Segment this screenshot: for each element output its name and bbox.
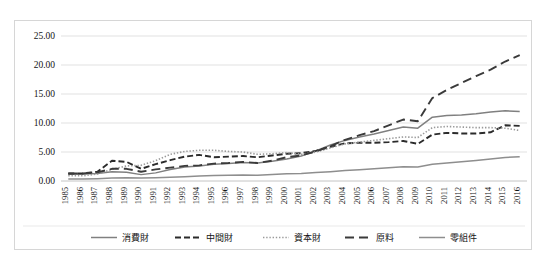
svg-text:2009: 2009 xyxy=(410,187,420,204)
svg-text:1991: 1991 xyxy=(148,187,158,204)
chart-plot-area: 0.005.0010.0015.0020.0025.00 19851986198… xyxy=(15,21,533,251)
line-chart: 0.005.0010.0015.0020.0025.00 19851986198… xyxy=(15,21,533,251)
svg-text:2004: 2004 xyxy=(337,186,347,204)
series-line-3 xyxy=(68,55,519,173)
svg-text:1997: 1997 xyxy=(235,186,245,204)
series-line-2 xyxy=(68,126,519,175)
legend-label-2: 資本財 xyxy=(294,232,321,243)
svg-text:10.00: 10.00 xyxy=(34,118,56,128)
svg-text:20.00: 20.00 xyxy=(34,60,56,70)
svg-text:2003: 2003 xyxy=(322,187,332,204)
svg-text:2001: 2001 xyxy=(293,187,303,204)
gridlines xyxy=(61,36,527,181)
chart-legend: 消費財中間財資本財原料零組件 xyxy=(23,226,525,243)
svg-text:1987: 1987 xyxy=(89,186,99,204)
svg-text:1988: 1988 xyxy=(104,187,114,204)
series-line-0 xyxy=(68,111,519,175)
svg-text:2002: 2002 xyxy=(308,187,318,204)
svg-text:5.00: 5.00 xyxy=(38,147,55,157)
chart-frame: 0.005.0010.0015.0020.0025.00 19851986198… xyxy=(14,20,532,250)
svg-text:2012: 2012 xyxy=(453,187,463,204)
svg-text:1989: 1989 xyxy=(119,187,129,204)
series-line-4 xyxy=(68,157,519,179)
svg-text:15.00: 15.00 xyxy=(34,89,56,99)
x-axis-tick-labels: 1985198619871988198919901991199219931994… xyxy=(60,186,521,204)
svg-text:2000: 2000 xyxy=(279,187,289,204)
svg-text:2014: 2014 xyxy=(483,186,493,204)
svg-text:1999: 1999 xyxy=(264,187,274,204)
svg-text:1986: 1986 xyxy=(75,186,85,204)
data-series-group xyxy=(68,55,519,179)
svg-text:1993: 1993 xyxy=(177,187,187,204)
svg-text:1996: 1996 xyxy=(220,186,230,204)
svg-text:2008: 2008 xyxy=(395,187,405,204)
svg-text:0.00: 0.00 xyxy=(38,176,55,186)
legend-label-3: 原料 xyxy=(376,232,394,243)
svg-text:2007: 2007 xyxy=(381,186,391,204)
legend-label-4: 零組件 xyxy=(450,232,477,243)
series-line-1 xyxy=(68,125,519,173)
svg-text:1985: 1985 xyxy=(60,187,70,204)
y-axis-tick-labels: 0.005.0010.0015.0020.0025.00 xyxy=(34,31,56,186)
svg-text:2015: 2015 xyxy=(497,187,507,204)
svg-text:1990: 1990 xyxy=(133,187,143,204)
svg-text:2013: 2013 xyxy=(468,187,478,204)
svg-text:2011: 2011 xyxy=(439,187,449,204)
legend-label-0: 消費財 xyxy=(122,232,149,243)
svg-text:1994: 1994 xyxy=(191,186,201,204)
svg-text:25.00: 25.00 xyxy=(34,31,56,41)
svg-text:1998: 1998 xyxy=(250,187,260,204)
svg-text:2016: 2016 xyxy=(512,186,522,204)
svg-text:2006: 2006 xyxy=(366,186,376,204)
svg-text:2010: 2010 xyxy=(424,187,434,204)
svg-text:2005: 2005 xyxy=(352,187,362,204)
svg-text:1992: 1992 xyxy=(162,187,172,204)
legend-label-1: 中間財 xyxy=(206,232,233,243)
svg-text:1995: 1995 xyxy=(206,187,216,204)
